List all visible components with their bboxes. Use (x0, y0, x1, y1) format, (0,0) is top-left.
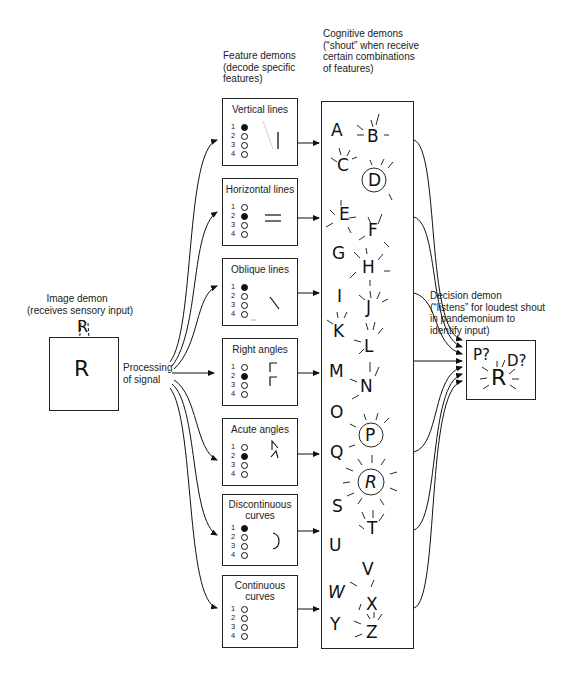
decision-header-line1: Decision demon (430, 290, 545, 302)
cognitive-letter-I: I (337, 288, 342, 305)
cognitive-header-line4: of features) (323, 63, 419, 75)
cognitive-letter-N: N (360, 378, 373, 395)
count-label: 4 (231, 632, 239, 640)
feature-demon-vertical-lines: Vertical lines 1 2 3 4 (222, 98, 298, 166)
cognitive-letter-S: S (332, 498, 343, 515)
feature-header-line1: Feature demons (223, 50, 296, 62)
feature-demon-acute-angles: Acute angles 1 2 3 4 (222, 418, 298, 486)
cognitive-letter-J: J (366, 299, 371, 316)
cognitive-letter-U: U (329, 537, 341, 554)
count-label: 2 (231, 614, 239, 622)
cognitive-header-line3: certain combinations (323, 51, 419, 63)
count-label: 1 (231, 605, 239, 613)
cognitive-letter-E: E (339, 206, 350, 223)
empty-circle-icon (241, 606, 248, 613)
decision-demon-caption: Decision demon (“listens” for loudest sh… (430, 290, 545, 336)
cognitive-letter-V: V (362, 561, 374, 578)
image-demon-box: R (49, 337, 119, 411)
cognitive-demons-caption: Cognitive demons (“shout” when receive c… (323, 28, 419, 74)
cognitive-demons-column: A B C D E F G H I J K L M N O P Q R S T … (321, 101, 414, 649)
image-demon-subtitle: (receives sensory input) (27, 305, 127, 317)
cognitive-letter-M: M (329, 363, 344, 380)
cognitive-letter-C: C (337, 157, 349, 174)
oblique-line-icon (223, 259, 297, 325)
decision-guess-p: P? (473, 347, 490, 364)
image-demon-title: Image demon (27, 293, 127, 305)
feature-title-line2: curves (223, 591, 297, 603)
feature-demon-discontinuous-curves: Discontinuous curves 1 2 3 4 (222, 494, 298, 566)
empty-circle-icon (241, 633, 248, 640)
cognitive-letter-Q: Q (330, 444, 343, 461)
cognitive-letter-A: A (331, 122, 343, 139)
curve-icon (223, 495, 297, 565)
decision-demon-box: P? D? R (466, 340, 536, 400)
decision-header-line4: identify input) (430, 325, 545, 337)
decision-header-line3: in pandemonium to (430, 313, 545, 325)
cognitive-letter-K: K (333, 323, 344, 340)
cognitive-letter-L: L (364, 338, 373, 355)
decision-answer-r: R (491, 369, 506, 386)
feature-demon-horizontal-lines: Horizontal lines 1 2 3 4 (222, 178, 298, 246)
cognitive-letter-Z: Z (366, 624, 378, 641)
feature-demon-continuous-curves: Continuous curves 1 2 3 4 (222, 575, 298, 648)
cognitive-letter-F: F (368, 222, 378, 239)
feature-title: Continuous (223, 580, 297, 592)
feature-demons-caption: Feature demons (decode specific features… (223, 50, 296, 85)
image-demon-caption: Image demon (receives sensory input) (27, 293, 127, 316)
empty-circle-icon (241, 624, 248, 631)
feature-demon-oblique-lines: Oblique lines 1 2 3 4 (222, 258, 298, 326)
feature-demon-right-angles: Right angles 1 2 3 4 (222, 338, 298, 406)
decision-header-line2: (“listens” for loudest shout (430, 302, 545, 314)
cognitive-header-line2: (“shout” when receive (323, 40, 419, 52)
cognitive-letter-W: W (328, 584, 345, 601)
feature-header-line2: (decode specific (223, 62, 296, 74)
cognitive-letter-O: O (330, 404, 343, 421)
image-demon-letter: R (74, 360, 89, 377)
right-angles-icon (223, 339, 297, 405)
cognitive-header-line1: Cognitive demons (323, 28, 419, 40)
empty-circle-icon (241, 615, 248, 622)
cognitive-letter-G: G (332, 245, 345, 262)
cognitive-letter-D: D (368, 172, 381, 189)
cognitive-letter-P: P (365, 427, 375, 444)
acute-angles-icon (223, 419, 297, 485)
decision-guess-d: D? (507, 353, 527, 370)
processing-line1: Processing (123, 362, 172, 374)
cognitive-letter-H: H (362, 259, 375, 276)
feature-header-line3: features) (223, 73, 296, 85)
horizontal-lines-icon (223, 179, 297, 245)
cognitive-letter-T: T (367, 520, 377, 537)
cognitive-letter-B: B (367, 128, 379, 145)
vertical-line-icon (223, 99, 297, 165)
processing-line2: of signal (123, 374, 172, 386)
image-demon-top-letter: R (77, 318, 88, 335)
count-label: 3 (231, 623, 239, 631)
processing-caption: Processing of signal (123, 362, 172, 385)
cognitive-letter-R: R (365, 474, 377, 491)
cognitive-letter-Y: Y (330, 616, 340, 633)
cognitive-letter-X: X (366, 596, 378, 613)
